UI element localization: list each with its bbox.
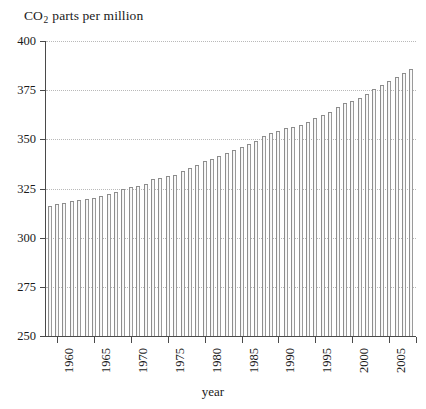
- bar: [203, 161, 207, 336]
- bar: [284, 128, 288, 336]
- x-axis-line: [45, 336, 416, 337]
- bar: [62, 203, 66, 336]
- bar: [99, 196, 103, 336]
- bar: [136, 186, 140, 336]
- bar: [114, 192, 118, 336]
- bar: [350, 101, 354, 336]
- x-tick-label-1965: 1965: [100, 346, 113, 371]
- x-tick-label-2000: 2000: [358, 346, 371, 371]
- bar: [240, 147, 244, 336]
- x-tick-1960: [57, 337, 58, 343]
- y-tick-label-400: 400: [0, 35, 36, 48]
- bar: [166, 176, 170, 336]
- bar: [70, 201, 74, 336]
- x-tick-1985: [242, 337, 243, 343]
- bar: [387, 81, 391, 336]
- x-tick-label-1975: 1975: [174, 346, 187, 371]
- bar: [55, 204, 59, 336]
- x-tick-label-1990: 1990: [284, 346, 297, 371]
- x-tick-label-1995: 1995: [321, 346, 334, 371]
- y-tick-label-325: 325: [0, 183, 36, 196]
- x-tick-1975: [168, 337, 169, 343]
- x-axis-end-tick: [416, 337, 417, 343]
- x-tick-label-1980: 1980: [211, 346, 224, 371]
- bar: [158, 178, 162, 336]
- bar: [328, 112, 332, 336]
- bar: [129, 187, 133, 336]
- plot-area: [46, 41, 415, 336]
- bar: [85, 199, 89, 336]
- bar: [247, 144, 251, 336]
- bar: [232, 150, 236, 336]
- x-tick-1995: [315, 337, 316, 343]
- x-tick-label-1970: 1970: [137, 346, 150, 371]
- bar: [92, 198, 96, 336]
- bar: [48, 206, 52, 336]
- x-tick-1970: [131, 337, 132, 343]
- bar: [225, 153, 229, 336]
- bar: [188, 168, 192, 336]
- co2-bar-chart: CO2 parts per million 400375350325300275…: [0, 0, 426, 409]
- bar: [409, 69, 413, 336]
- bar: [151, 179, 155, 336]
- x-tick-label-1985: 1985: [248, 346, 261, 371]
- x-tick-label-2005: 2005: [395, 346, 408, 371]
- bar: [291, 127, 295, 336]
- bar: [365, 94, 369, 336]
- chart-title-main: CO: [24, 8, 43, 23]
- bar: [321, 115, 325, 336]
- y-tick-label-375: 375: [0, 84, 36, 97]
- bar: [210, 159, 214, 336]
- bar: [107, 194, 111, 336]
- bar: [358, 98, 362, 336]
- bar: [380, 85, 384, 336]
- x-axis-title: year: [0, 384, 426, 400]
- bar: [144, 184, 148, 336]
- bar: [269, 133, 273, 336]
- bar: [372, 89, 376, 336]
- x-tick-1990: [278, 337, 279, 343]
- bar: [195, 165, 199, 336]
- y-tick-label-350: 350: [0, 133, 36, 146]
- bar: [173, 175, 177, 336]
- x-tick-1980: [205, 337, 206, 343]
- bar: [262, 136, 266, 336]
- bar: [217, 156, 221, 336]
- y-tick-label-250: 250: [0, 330, 36, 343]
- bar: [306, 122, 310, 336]
- x-tick-2005: [389, 337, 390, 343]
- chart-title: CO2 parts per million: [24, 8, 143, 25]
- y-tick-label-300: 300: [0, 232, 36, 245]
- bar: [343, 103, 347, 336]
- chart-title-rest: parts per million: [49, 8, 143, 23]
- bar: [276, 131, 280, 336]
- bar: [402, 73, 406, 336]
- x-tick-label-1960: 1960: [63, 346, 76, 371]
- bar: [299, 125, 303, 336]
- bar: [395, 77, 399, 336]
- bar: [77, 200, 81, 336]
- bar: [121, 189, 125, 336]
- bar: [181, 171, 185, 336]
- x-tick-2000: [352, 337, 353, 343]
- y-tick-250: [40, 336, 46, 337]
- x-tick-1965: [94, 337, 95, 343]
- bar: [336, 107, 340, 337]
- bar: [313, 118, 317, 336]
- y-tick-label-275: 275: [0, 281, 36, 294]
- bar: [254, 141, 258, 336]
